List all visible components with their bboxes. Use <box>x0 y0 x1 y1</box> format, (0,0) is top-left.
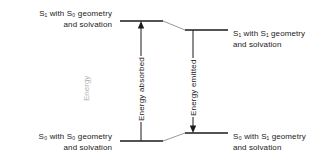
state-label-top-right-line1: S₁ with S₁ geometry <box>233 29 305 38</box>
emission-arrow-head <box>190 126 196 134</box>
state-label-bottom-left-line2: and solvation <box>64 143 112 152</box>
state-label-bottom-right: S₀ with S₁ geometry and solvation <box>233 131 306 153</box>
energy-axis-label: Energy <box>82 76 91 101</box>
state-label-bottom-right-line1: S₀ with S₁ geometry <box>233 132 306 141</box>
energy-level-diagram: S₁ with S₀ geometry and solvation S₀ wit… <box>0 0 335 167</box>
state-label-top-left: S₁ with S₀ geometry and solvation <box>8 8 112 30</box>
state-label-top-left-line1: S₁ with S₀ geometry <box>39 9 112 18</box>
state-label-bottom-right-line2: and solvation <box>233 143 281 152</box>
state-label-top-left-line2: and solvation <box>64 20 112 29</box>
state-label-top-right-line2: and solvation <box>233 40 281 49</box>
energy-absorbed-label: Energy absorbed <box>137 56 146 122</box>
connector-bottom-levels <box>163 133 185 141</box>
absorption-arrow-head <box>138 21 144 29</box>
state-label-top-right: S₁ with S₁ geometry and solvation <box>233 28 305 50</box>
state-label-bottom-left-line1: S₀ with S₀ geometry <box>39 132 112 141</box>
connector-top-levels <box>163 21 185 30</box>
state-label-bottom-left: S₀ with S₀ geometry and solvation <box>8 131 112 153</box>
energy-emitted-label: Energy emitted <box>189 58 198 117</box>
